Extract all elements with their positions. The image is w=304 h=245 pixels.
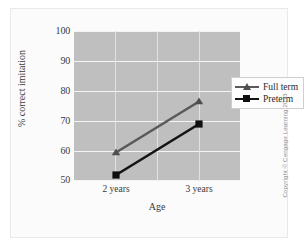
x-tick-label: 3 years bbox=[164, 184, 234, 194]
plot-area: Full term Preterm bbox=[74, 31, 240, 181]
y-tick-label: 50 bbox=[40, 175, 70, 185]
y-tick-label: 80 bbox=[40, 86, 70, 96]
series-layer bbox=[74, 31, 240, 181]
x-axis-title: Age bbox=[74, 201, 240, 212]
series-full-term bbox=[112, 98, 203, 156]
square-marker-icon bbox=[243, 95, 250, 102]
series-preterm bbox=[112, 120, 202, 178]
legend-entry-preterm: Preterm bbox=[235, 93, 298, 105]
y-tick-label: 90 bbox=[40, 56, 70, 66]
x-tick-label: 2 years bbox=[81, 184, 151, 194]
legend-marker-preterm bbox=[235, 94, 259, 104]
legend-entry-full-term: Full term bbox=[235, 81, 298, 93]
legend-label-preterm: Preterm bbox=[263, 94, 293, 104]
square-marker-icon bbox=[195, 120, 202, 127]
plot-wrapper: Full term Preterm 100 90 80 70 60 50 2 y… bbox=[0, 0, 298, 245]
y-tick-label: 60 bbox=[40, 146, 70, 156]
figure: Full term Preterm 100 90 80 70 60 50 2 y… bbox=[0, 0, 298, 245]
copyright-notice: Copyright © Cengage Learning 2013 bbox=[281, 86, 288, 206]
legend-marker-full-term bbox=[235, 82, 259, 92]
y-tick-label: 100 bbox=[40, 26, 70, 36]
triangle-marker-icon bbox=[195, 98, 203, 105]
triangle-marker-icon bbox=[243, 83, 251, 90]
y-tick-label: 70 bbox=[40, 116, 70, 126]
legend: Full term Preterm bbox=[231, 77, 298, 109]
square-marker-icon bbox=[112, 171, 119, 178]
y-axis-title: % correct imitation bbox=[16, 29, 27, 149]
y-axis-ticks: 100 90 80 70 60 50 bbox=[38, 31, 70, 181]
